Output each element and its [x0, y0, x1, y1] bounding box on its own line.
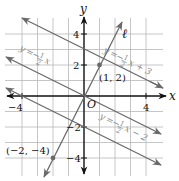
line-top-arrow [150, 82, 163, 89]
x-tick-neg4: −4 [8, 102, 23, 113]
point-1-2-label: (1, 2) [99, 72, 126, 83]
svg-text:x + 3: x + 3 [127, 57, 153, 77]
line-l-label: ℓ [122, 26, 128, 41]
point-neg2-neg4-label: (−2, −4) [6, 145, 50, 156]
equation-label-middle: y = − 1 2 x [15, 42, 53, 72]
y-axis-label: y [79, 2, 87, 16]
y-tick-4: 4 [73, 29, 79, 40]
point-1-2 [97, 63, 102, 68]
origin-label: O [87, 98, 96, 111]
x-axis-label: x [169, 89, 176, 103]
point-neg2-neg4 [51, 156, 56, 161]
x-tick-4: 4 [143, 102, 149, 113]
coordinate-plane-diagram: y x O 4 2 −2 −4 −4 4 ℓ (1, 2) (−2, −4) y… [0, 0, 179, 181]
y-tick-neg4: −4 [66, 153, 81, 164]
line-l [44, 22, 122, 177]
y-tick-neg2: −2 [66, 122, 81, 133]
y-tick-2: 2 [73, 60, 79, 71]
